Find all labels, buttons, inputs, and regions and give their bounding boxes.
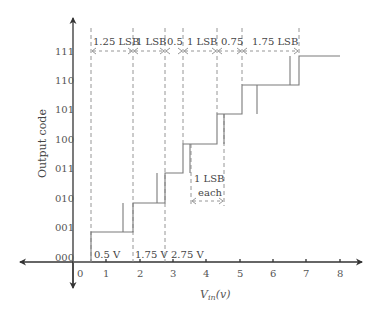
- svg-text:011: 011: [55, 163, 74, 174]
- lsb-note: 1 LSB each: [192, 173, 224, 204]
- svg-text:1 LSB: 1 LSB: [194, 173, 224, 184]
- svg-text:1: 1: [103, 268, 109, 279]
- svg-text:000: 000: [55, 252, 74, 263]
- voltage-labels: 0.5 V 1.75 V 2.75 V: [94, 249, 204, 260]
- svg-text:each: each: [198, 187, 222, 198]
- svg-text:4: 4: [203, 268, 209, 279]
- svg-text:0.75: 0.75: [221, 36, 243, 47]
- svg-text:0.5 V: 0.5 V: [94, 249, 121, 260]
- svg-text:5: 5: [237, 268, 243, 279]
- svg-text:1 LSB: 1 LSB: [187, 36, 217, 47]
- svg-text:001: 001: [55, 222, 74, 233]
- adc-transfer-diagram: 0 1 2 3 4 5 6 7 8 Vin(v) 000 001 010 011…: [0, 0, 383, 312]
- svg-text:110: 110: [55, 75, 74, 86]
- svg-text:3: 3: [170, 268, 176, 279]
- svg-text:0.5: 0.5: [167, 36, 183, 47]
- x-axis-label: Vin(v): [200, 288, 230, 302]
- svg-text:0: 0: [77, 268, 83, 279]
- svg-text:2: 2: [137, 268, 143, 279]
- staircase: [73, 56, 340, 262]
- svg-text:1.75 LSB: 1.75 LSB: [252, 36, 298, 47]
- x-tick-labels: 0 1 2 3 4 5 6 7 8: [77, 268, 343, 279]
- svg-text:111: 111: [55, 46, 74, 57]
- svg-text:100: 100: [55, 134, 74, 145]
- svg-text:2.75 V: 2.75 V: [171, 249, 204, 260]
- svg-text:1.75 V: 1.75 V: [135, 249, 168, 260]
- svg-text:1.25 LSB: 1.25 LSB: [93, 36, 139, 47]
- top-dimension-labels: 1.25 LSB 1 LSB 0.5 1 LSB 0.75 1.75 LSB: [93, 36, 298, 47]
- svg-text:1 LSB: 1 LSB: [136, 36, 166, 47]
- y-axis-label: Output code: [36, 109, 49, 178]
- top-dimension-arrows: [92, 48, 298, 54]
- svg-text:101: 101: [55, 104, 74, 115]
- svg-text:6: 6: [270, 268, 276, 279]
- y-code-labels: 000 001 010 011 100 101 110 111: [55, 46, 74, 263]
- svg-text:010: 010: [55, 193, 74, 204]
- transition-guides: [91, 28, 299, 262]
- svg-text:7: 7: [303, 268, 309, 279]
- svg-text:8: 8: [337, 268, 343, 279]
